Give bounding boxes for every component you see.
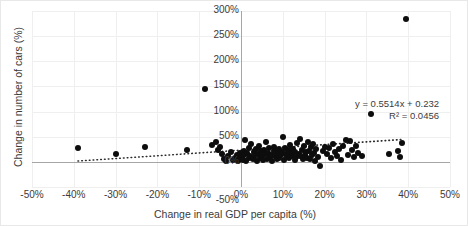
- y-tick-label: 300%: [195, 4, 239, 15]
- y-tick-label: 200%: [195, 54, 239, 65]
- gridline-horizontal: [32, 187, 450, 188]
- x-tick-label: -20%: [134, 189, 180, 200]
- x-tick-label: 50%: [427, 189, 468, 200]
- data-point: [142, 144, 148, 150]
- x-tick-label: 20%: [302, 189, 348, 200]
- x-tick-label: 10%: [260, 189, 306, 200]
- y-tick-label: 50%: [195, 130, 239, 141]
- y-tick-label: 0%: [195, 155, 239, 166]
- scatter-chart: Change in number of cars (%) Change in r…: [0, 0, 468, 226]
- data-point: [217, 144, 223, 150]
- data-point: [280, 134, 286, 140]
- gridline-vertical: [450, 11, 451, 187]
- x-tick-label: -40%: [51, 189, 97, 200]
- r-squared-value: R² = 0.0456: [299, 110, 439, 122]
- x-tick-label: -50%: [9, 189, 55, 200]
- trendline-annotation: y = 0.5514x + 0.232 R² = 0.0456: [299, 98, 439, 122]
- data-point: [242, 137, 248, 143]
- x-tick-label: 30%: [343, 189, 389, 200]
- x-axis-title: Change in real GDP per capita (%): [1, 208, 468, 220]
- y-tick-label: 150%: [195, 79, 239, 90]
- data-point: [184, 147, 190, 153]
- data-point: [113, 151, 119, 157]
- data-point: [330, 141, 336, 147]
- y-tick-label: 250%: [195, 29, 239, 40]
- data-point: [297, 136, 303, 142]
- y-axis-title: Change in number of cars (%): [12, 7, 24, 187]
- x-tick-label: 40%: [385, 189, 431, 200]
- data-point: [347, 138, 353, 144]
- y-tick-label: 100%: [195, 105, 239, 116]
- data-point: [399, 140, 405, 146]
- x-tick-label: -30%: [93, 189, 139, 200]
- y-tick-label: -50%: [195, 194, 239, 205]
- data-point: [345, 152, 351, 158]
- regression-equation: y = 0.5514x + 0.232: [299, 98, 439, 110]
- data-point: [403, 16, 409, 22]
